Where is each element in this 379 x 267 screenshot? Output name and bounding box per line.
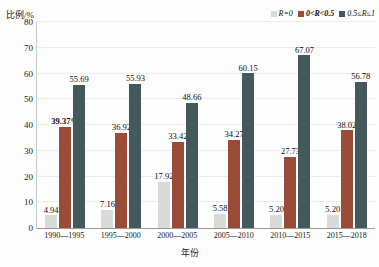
y-axis-tick-label: 80 (24, 17, 33, 27)
bar-slot: 48.66 (186, 22, 198, 228)
bar[interactable]: 55.69 (73, 85, 85, 228)
y-axis-tick-label: 50 (24, 94, 33, 104)
bar-value-label: 7.16 (100, 200, 115, 209)
bar[interactable]: 17.92 (158, 182, 170, 228)
bar[interactable]: 5.20 (270, 215, 282, 228)
bar-groups: 4.9439.37%55.697.1636.9255.9317.9233.424… (37, 22, 375, 228)
y-axis-tick-label: 30 (24, 146, 33, 156)
bar[interactable]: 38.02 (341, 130, 353, 228)
bar[interactable]: 39.37% (59, 127, 71, 228)
bar-value-label: 48.66 (182, 93, 201, 102)
bar-slot: 33.42 (172, 22, 184, 228)
y-axis-tick-label: 40 (24, 120, 33, 130)
bar-value-label: 34.27 (225, 130, 244, 139)
bar-value-label: 55.93 (126, 74, 145, 83)
bar-slot: 39.37% (59, 22, 71, 228)
bar[interactable]: 7.16 (101, 210, 113, 228)
bar[interactable]: 5.20 (327, 215, 339, 228)
bar-slot: 5.20 (270, 22, 282, 228)
x-axis-title: 年份 (0, 246, 379, 259)
bar-slot: 34.27 (228, 22, 240, 228)
bar[interactable]: 5.58 (214, 214, 226, 228)
legend-label-r-high: 0.5≤R≤1 (347, 9, 375, 18)
bar-value-label: 5.58 (213, 204, 228, 213)
bar-slot: 55.69 (73, 22, 85, 228)
bar-group: 4.9439.37%55.69 (37, 22, 93, 228)
bar[interactable]: 4.94 (45, 215, 57, 228)
bar[interactable]: 36.92 (115, 133, 127, 228)
bar-value-label: 36.92 (112, 123, 131, 132)
bar-value-label: 67.07 (295, 46, 314, 55)
y-axis-tick-label: 0 (29, 223, 34, 233)
legend-item-r-high: 0.5≤R≤1 (339, 9, 375, 18)
bar-group: 5.2027.7367.07 (262, 22, 318, 228)
bar-value-label: 5.20 (325, 205, 340, 214)
x-axis-tick-label: 2010—2015 (262, 231, 319, 240)
x-axis-tick-label: 2015—2018 (319, 231, 376, 240)
bar-slot: 5.58 (214, 22, 226, 228)
bar-group: 5.5834.2760.15 (206, 22, 262, 228)
bar-slot: 56.78 (355, 22, 367, 228)
bar-slot: 67.07 (298, 22, 310, 228)
legend-label-r-mid: 0<R<0.5 (306, 9, 334, 18)
x-axis-tick-label: 2005—2010 (206, 231, 263, 240)
legend-label-r-equals-0: R=0 (279, 9, 293, 18)
bar[interactable]: 60.15 (242, 73, 254, 228)
bar-slot: 55.93 (129, 22, 141, 228)
y-axis-tick-label: 60 (24, 69, 33, 79)
y-axis-tick-label: 70 (24, 43, 33, 53)
bar[interactable]: 48.66 (186, 103, 198, 228)
x-axis-tick-label: 2000—2005 (149, 231, 206, 240)
legend-swatch-r-high (339, 11, 345, 17)
plot-area: 80706050403020100 4.9439.37%55.697.1636.… (36, 22, 375, 229)
bar-value-label: 27.73 (281, 147, 300, 156)
x-axis-tick-label: 1995—2000 (93, 231, 150, 240)
x-axis-tick-labels: 1990—19951995—20002000—20052005—20102010… (36, 231, 375, 240)
bar-slot: 60.15 (242, 22, 254, 228)
bar[interactable]: 67.07 (298, 55, 310, 228)
bar-slot: 17.92 (158, 22, 170, 228)
bar-value-label: 38.02 (337, 121, 356, 130)
y-axis-tick-label: 10 (24, 197, 33, 207)
bar-group: 17.9233.4248.66 (150, 22, 206, 228)
bar-group: 7.1636.9255.93 (93, 22, 149, 228)
bar[interactable]: 55.93 (129, 84, 141, 228)
legend-swatch-r-mid (298, 11, 304, 17)
bar[interactable]: 34.27 (228, 140, 240, 228)
bar-value-label: 17.92 (154, 172, 173, 181)
x-axis-tick-label: 1990—1995 (36, 231, 93, 240)
bar-chart: 比例/% R=0 0<R<0.5 0.5≤R≤1 807060504030201… (0, 0, 379, 267)
bar[interactable]: 27.73 (284, 157, 296, 228)
legend-item-r-equals-0: R=0 (271, 9, 293, 18)
bar-value-label: 56.78 (351, 72, 370, 81)
legend-swatch-r-equals-0 (271, 11, 277, 17)
bar[interactable]: 56.78 (355, 82, 367, 228)
bar-value-label: 4.94 (44, 206, 59, 215)
bar-value-label: 60.15 (239, 64, 258, 73)
y-axis-tick-label: 20 (24, 172, 33, 182)
legend-item-r-mid: 0<R<0.5 (298, 9, 334, 18)
bar-slot: 36.92 (115, 22, 127, 228)
bar-value-label: 33.42 (168, 132, 187, 141)
bar[interactable]: 33.42 (172, 142, 184, 228)
bar-value-label: 5.20 (269, 205, 284, 214)
chart-legend: R=0 0<R<0.5 0.5≤R≤1 (271, 9, 375, 18)
bar-slot: 38.02 (341, 22, 353, 228)
bar-value-label: 55.69 (70, 75, 89, 84)
bar-group: 5.2038.0256.78 (319, 22, 375, 228)
